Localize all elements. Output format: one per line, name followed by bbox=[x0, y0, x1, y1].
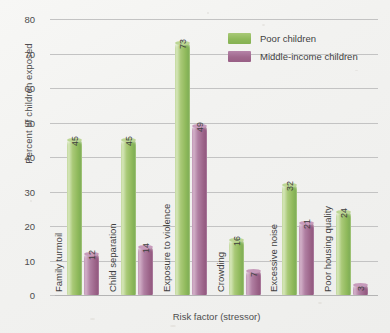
y-tick-mark-60 bbox=[50, 88, 55, 89]
bar-poor-3 bbox=[229, 240, 244, 295]
bar-middle-2 bbox=[192, 126, 207, 295]
x-axis-title: Risk factor (stressor) bbox=[55, 311, 378, 322]
scan-speck-6 bbox=[170, 325, 176, 327]
bar-poor-1 bbox=[121, 140, 136, 295]
y-tick-label-50: 50 bbox=[0, 117, 35, 128]
legend-swatch-poor-children bbox=[228, 33, 251, 44]
y-tick-mark-80 bbox=[50, 19, 55, 20]
y-tick-mark-30 bbox=[50, 192, 55, 193]
y-tick-label-70: 70 bbox=[0, 48, 35, 59]
x-category-label-1: Child separation bbox=[107, 223, 118, 292]
x-category-label-4: Excessive noise bbox=[268, 224, 279, 292]
legend-item-poor-children: Poor children bbox=[228, 33, 358, 44]
bar-middle-1 bbox=[138, 247, 153, 295]
bar-value-label-poor-2: 73 bbox=[178, 39, 188, 49]
bar-value-label-poor-1: 45 bbox=[124, 136, 134, 146]
legend-label-poor-children: Poor children bbox=[260, 33, 316, 44]
gridline-0 bbox=[55, 295, 378, 296]
gridline-40 bbox=[55, 157, 378, 158]
y-tick-label-60: 60 bbox=[0, 83, 35, 94]
gridline-60 bbox=[55, 88, 378, 89]
gridline-80 bbox=[55, 19, 378, 20]
x-category-label-2: Exposure to violence bbox=[161, 204, 172, 292]
y-tick-mark-20 bbox=[50, 226, 55, 227]
x-category-label-5: Poor housing quality bbox=[322, 206, 333, 292]
y-tick-label-20: 20 bbox=[0, 221, 35, 232]
bar-value-label-middle-2: 49 bbox=[195, 122, 205, 132]
scan-speck-4 bbox=[355, 70, 358, 71]
bar-value-label-middle-0: 12 bbox=[87, 250, 97, 260]
bar-value-label-middle-4: 21 bbox=[302, 219, 312, 229]
bar-poor-0 bbox=[67, 140, 82, 295]
bar-value-label-poor-0: 45 bbox=[70, 136, 80, 146]
scan-speck-1 bbox=[318, 302, 322, 304]
gridline-30 bbox=[55, 192, 378, 193]
scan-speck-7 bbox=[244, 318, 248, 320]
bar-poor-5 bbox=[336, 212, 351, 295]
x-category-label-3: Crowding bbox=[215, 252, 226, 292]
bar-poor-2 bbox=[175, 43, 190, 295]
legend-item-middle-income-children: Middle-income children bbox=[228, 51, 358, 62]
y-tick-mark-70 bbox=[50, 54, 55, 55]
bar-value-label-poor-3: 16 bbox=[232, 236, 242, 246]
bar-value-label-middle-3: 7 bbox=[249, 272, 259, 277]
y-tick-label-80: 80 bbox=[0, 14, 35, 25]
bar-poor-4 bbox=[282, 185, 297, 295]
legend-label-middle-income-children: Middle-income children bbox=[260, 51, 358, 62]
y-tick-label-0: 0 bbox=[0, 290, 35, 301]
bar-value-label-poor-4: 32 bbox=[285, 181, 295, 191]
scan-speck-5 bbox=[30, 200, 32, 202]
bar-value-label-poor-5: 24 bbox=[339, 208, 349, 218]
scan-speck-2 bbox=[90, 318, 95, 320]
gridline-50 bbox=[55, 123, 378, 124]
y-tick-mark-40 bbox=[50, 157, 55, 158]
bar-value-label-middle-1: 14 bbox=[141, 243, 151, 253]
y-tick-label-10: 10 bbox=[0, 255, 35, 266]
y-tick-mark-50 bbox=[50, 123, 55, 124]
bar-value-label-middle-5: 3 bbox=[356, 286, 366, 291]
legend: Poor children Middle-income children bbox=[228, 33, 358, 69]
scan-speck-3 bbox=[207, 12, 209, 14]
y-tick-label-40: 40 bbox=[0, 152, 35, 163]
y-tick-mark-0 bbox=[50, 295, 55, 296]
bar-chart: Percent of children exposed 010203040506… bbox=[0, 0, 390, 333]
scan-speck-0 bbox=[262, 24, 265, 26]
legend-swatch-middle-income-children bbox=[228, 51, 251, 62]
x-category-label-0: Family turmoil bbox=[53, 233, 64, 292]
y-tick-label-30: 30 bbox=[0, 186, 35, 197]
bar-middle-4 bbox=[299, 223, 314, 295]
